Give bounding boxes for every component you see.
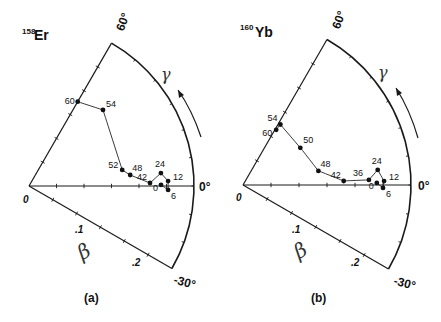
beta-tick-2-b: .2 bbox=[351, 257, 360, 268]
data-point bbox=[278, 122, 283, 127]
data-point bbox=[382, 179, 387, 184]
nucleus-mass-b: 160 bbox=[240, 23, 254, 32]
angle-label-60-a: 60° bbox=[113, 11, 132, 33]
gamma-direction-arrow-a bbox=[178, 90, 201, 137]
panel-label-b: (b) bbox=[311, 291, 326, 305]
gamma-tick-mark bbox=[189, 157, 191, 158]
spin-label: 24 bbox=[155, 159, 165, 169]
figure-canvas: 158 Er 0612244248525460 0° 60° -30° 0 .1… bbox=[0, 0, 441, 322]
data-point bbox=[159, 171, 164, 176]
trajectory-a: 0612244248525460 bbox=[65, 96, 183, 201]
origin-label-b: 0 bbox=[236, 192, 242, 203]
data-point bbox=[341, 179, 346, 184]
panel-b-yb160: 160 Yb 061224364248505460 0° 60° -30° 0 … bbox=[236, 9, 430, 305]
data-point bbox=[101, 108, 106, 113]
spin-label: 0 bbox=[153, 183, 158, 193]
spin-label: 36 bbox=[353, 168, 363, 178]
data-point bbox=[316, 169, 321, 174]
spin-label: 60 bbox=[262, 128, 272, 138]
angle-label-m30-b: -30° bbox=[392, 274, 417, 293]
panel-a-er158: 158 Er 0612244248525460 0° 60° -30° 0 .1… bbox=[22, 11, 211, 305]
gamma-tick-mark bbox=[154, 80, 156, 82]
gamma-tick-mark bbox=[370, 77, 372, 79]
spin-label: 6 bbox=[171, 191, 176, 201]
angle-label-m30-a: -30° bbox=[172, 273, 197, 292]
data-point bbox=[75, 99, 80, 104]
gamma-arc bbox=[327, 40, 411, 270]
spin-label: 54 bbox=[106, 99, 116, 109]
gamma-arc bbox=[112, 43, 195, 268]
gamma-symbol-a: γ bbox=[161, 65, 171, 84]
data-point bbox=[274, 127, 279, 132]
spin-label: 52 bbox=[108, 160, 118, 170]
origin-label-a: 0 bbox=[23, 194, 29, 205]
data-point bbox=[166, 179, 171, 184]
angle-label-60-b: 60° bbox=[329, 9, 348, 31]
trajectory-b: 061224364248505460 bbox=[262, 113, 399, 199]
data-point bbox=[298, 145, 303, 150]
trajectory-curve bbox=[78, 102, 168, 190]
spin-label: 48 bbox=[320, 159, 330, 169]
spin-label: 24 bbox=[372, 156, 382, 166]
nucleus-symbol-b: Yb bbox=[255, 24, 273, 40]
angle-label-0-a: 0° bbox=[199, 180, 211, 194]
nucleus-symbol-a: Er bbox=[34, 27, 49, 43]
data-point bbox=[374, 181, 379, 186]
spin-label: 48 bbox=[132, 163, 142, 173]
data-point bbox=[148, 181, 153, 186]
gamma-symbol-b: γ bbox=[378, 63, 388, 82]
panel-label-a: (a) bbox=[84, 291, 99, 305]
gamma-tick-mark bbox=[189, 214, 191, 215]
gamma-tick-mark bbox=[134, 60, 136, 62]
beta-tick-2-a: .2 bbox=[132, 257, 141, 268]
data-point bbox=[381, 186, 386, 191]
spin-label: 12 bbox=[389, 172, 399, 182]
spin-label: 50 bbox=[303, 135, 313, 145]
data-point bbox=[159, 182, 164, 187]
gamma-tick-mark bbox=[406, 156, 408, 157]
data-point bbox=[375, 168, 380, 173]
gamma-tick-mark bbox=[170, 104, 172, 105]
data-point bbox=[120, 168, 125, 173]
data-point bbox=[128, 173, 133, 178]
gamma-tick-mark bbox=[406, 214, 408, 215]
beta-tick-1-a: .1 bbox=[75, 224, 84, 235]
data-point bbox=[166, 188, 171, 193]
beta-symbol-b: β bbox=[288, 237, 311, 264]
spin-label: 60 bbox=[65, 96, 75, 106]
arrowhead-icon-b bbox=[396, 88, 402, 96]
spin-label: 42 bbox=[137, 172, 147, 182]
spin-label: 54 bbox=[267, 113, 277, 123]
beta-tick-1-b: .1 bbox=[292, 224, 301, 235]
gamma-direction-arrow-b bbox=[396, 88, 418, 138]
spin-label: 6 bbox=[386, 189, 391, 199]
gamma-tick-mark bbox=[349, 56, 351, 58]
spin-label: 0 bbox=[369, 181, 374, 191]
gamma-tick-mark bbox=[386, 101, 388, 102]
beta-symbol-a: β bbox=[72, 238, 95, 265]
spin-label: 12 bbox=[173, 172, 183, 182]
data-point bbox=[367, 178, 372, 183]
spin-label: 42 bbox=[331, 170, 341, 180]
angle-label-0-b: 0° bbox=[418, 179, 430, 193]
